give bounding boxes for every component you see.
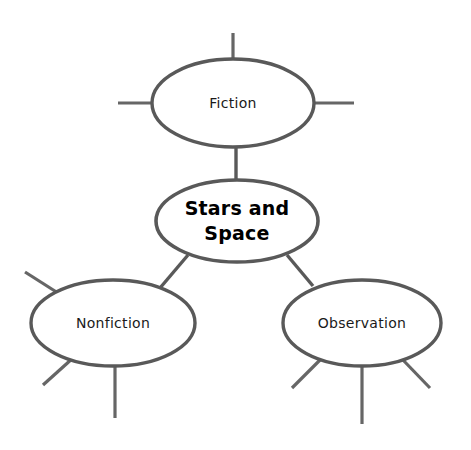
nonfiction-spoke-upper-left-line <box>25 272 58 293</box>
node-fiction[interactable]: Fiction <box>152 59 314 147</box>
connector-center-observation <box>287 255 313 286</box>
observation-spoke-lower-right-line <box>403 360 430 388</box>
concept-map-canvas: Fiction Nonfiction Observation Stars and… <box>0 0 471 450</box>
node-observation[interactable]: Observation <box>283 280 441 366</box>
fiction-label: Fiction <box>209 95 257 111</box>
observation-label: Observation <box>318 315 407 331</box>
center-topic-label-line1: Stars and <box>185 197 290 219</box>
concept-map-svg: Fiction Nonfiction Observation Stars and… <box>0 0 471 450</box>
observation-spoke-lower-left-line <box>292 360 320 388</box>
node-center-topic[interactable]: Stars and Space <box>156 180 318 262</box>
center-topic-label-line2: Space <box>204 222 269 244</box>
nonfiction-label: Nonfiction <box>76 315 150 331</box>
nonfiction-spoke-lower-left-line <box>43 358 73 385</box>
connector-center-nonfiction <box>160 255 188 288</box>
node-nonfiction[interactable]: Nonfiction <box>31 280 195 366</box>
